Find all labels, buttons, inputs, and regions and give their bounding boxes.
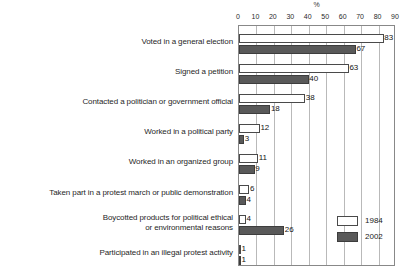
bar-value-2002-7: 1: [242, 255, 246, 264]
bar-value-1984-1: 63: [349, 63, 358, 72]
bar-1984-0: [239, 34, 384, 43]
bar-value-1984-4: 11: [259, 153, 267, 162]
category-label-7: Participated in an illegal protest activ…: [0, 248, 233, 258]
bar-2002-6: [239, 226, 284, 235]
bar-value-2002-0: 67: [356, 44, 365, 53]
bar-2002-1: [239, 75, 309, 84]
bar-2002-5: [239, 196, 246, 205]
legend-swatch-2002: [337, 232, 358, 242]
x-tick-40: 40: [300, 12, 316, 21]
bar-1984-5: [239, 185, 249, 194]
bar-1984-3: [239, 124, 260, 133]
bar-value-2002-4: 9: [255, 164, 259, 173]
bar-1984-2: [239, 94, 305, 103]
bar-value-1984-3: 12: [260, 123, 269, 132]
category-label-3: Worked in a political party: [0, 127, 233, 137]
category-label-1: Signed a petition: [0, 67, 233, 77]
x-tick-80: 80: [370, 12, 386, 21]
x-tick-30: 30: [282, 12, 298, 21]
bar-value-1984-0: 83: [384, 33, 393, 42]
category-label-4: Worked in an organized group: [0, 157, 233, 167]
x-tick-0: 0: [230, 12, 246, 21]
category-label-6: Boycotted products for political ethical…: [0, 213, 233, 233]
bar-1984-4: [239, 154, 258, 163]
bar-value-1984-7: 1: [242, 244, 246, 253]
bar-2002-4: [239, 165, 255, 174]
x-tick-20: 20: [265, 12, 281, 21]
bar-value-1984-5: 6: [250, 184, 254, 193]
legend: 19842002: [337, 216, 397, 244]
x-tick-60: 60: [335, 12, 351, 21]
bar-1984-6: [239, 215, 246, 224]
legend-label-1984: 1984: [365, 216, 383, 226]
x-tick-70: 70: [352, 12, 368, 21]
bar-2002-3: [239, 135, 244, 144]
bar-chart: % 0102030405060708090 Voted in a general…: [0, 0, 400, 274]
bar-1984-1: [239, 64, 349, 73]
gridline-40: [309, 26, 310, 265]
bar-value-2002-5: 4: [246, 195, 250, 204]
bar-value-2002-1: 40: [309, 74, 318, 83]
bar-2002-0: [239, 45, 356, 54]
bar-value-2002-6: 26: [285, 225, 294, 234]
x-tick-10: 10: [247, 12, 263, 21]
x-axis-unit-label: %: [310, 1, 324, 8]
legend-item-2002[interactable]: 2002: [337, 232, 397, 243]
legend-label-2002: 2002: [365, 232, 383, 242]
x-tick-90: 90: [387, 12, 400, 21]
category-label-5: Taken part in a protest march or public …: [0, 188, 233, 198]
bar-value-2002-3: 3: [245, 134, 249, 143]
gridline-50: [326, 26, 327, 265]
legend-item-1984[interactable]: 1984: [337, 216, 397, 227]
legend-swatch-1984: [337, 216, 358, 226]
bar-value-1984-2: 38: [306, 93, 315, 102]
bar-2002-2: [239, 105, 270, 114]
category-label-2: Contacted a politician or government off…: [0, 97, 233, 107]
x-tick-50: 50: [317, 12, 333, 21]
category-label-0: Voted in a general election: [0, 37, 233, 47]
bar-value-2002-2: 18: [271, 104, 280, 113]
bar-value-1984-6: 4: [246, 214, 250, 223]
